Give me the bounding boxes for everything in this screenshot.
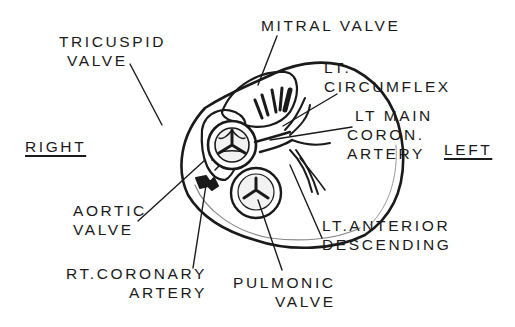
label-lt-circumflex: LT. CIRCUMFLEX [316,58,451,96]
label-lt-anterior-descending: LT.ANTERIOR DESCENDING [322,216,451,254]
label-aortic-valve: AORTIC VALVE [73,201,147,239]
label-mitral-valve: MITRAL VALVE [261,16,400,35]
label-orientation-right: RIGHT [25,137,86,156]
label-lt-main-coronary-artery: LT MAIN CORON. ARTERY [347,106,433,163]
pulmonic-valve [231,168,281,218]
aortic-valve [208,121,256,169]
right-coronary-artery [196,176,218,190]
label-tricuspid-valve: TRICUSPID VALVE [59,32,166,70]
label-orientation-left: LEFT [444,140,492,159]
heart-valves-diagram: TRICUSPID VALVE MITRAL VALVE LT. CIRCUMF… [0,0,515,327]
label-pulmonic-valve: PULMONIC VALVE [233,273,336,311]
label-rt-coronary-artery: RT.CORONARY ARTERY [66,264,207,302]
